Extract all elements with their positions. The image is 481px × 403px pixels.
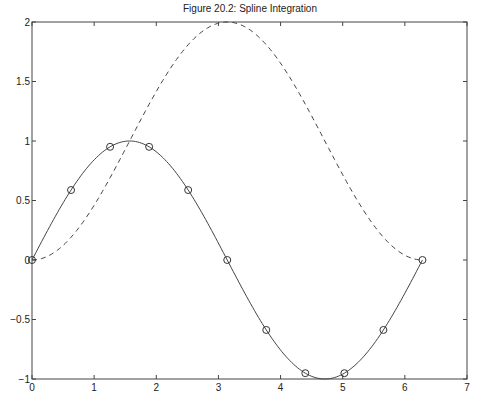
x-tick-label: 3 xyxy=(216,382,222,393)
chart: Figure 20.2: Spline Integration 01234567… xyxy=(0,0,481,403)
integral-curve-dashed xyxy=(32,22,422,260)
y-tick-label: 0.5 xyxy=(16,195,30,206)
x-tick-label: 5 xyxy=(340,382,346,393)
x-tick-label: 4 xyxy=(278,382,284,393)
x-tick-label: 1 xyxy=(91,382,97,393)
x-tick-label: 6 xyxy=(402,382,408,393)
x-tick-label: 7 xyxy=(464,382,470,393)
y-tick-label: 2 xyxy=(24,17,30,28)
x-tick-label: 2 xyxy=(154,382,160,393)
y-tick-label: 1 xyxy=(24,136,30,147)
spline-curve-solid xyxy=(32,141,422,379)
x-tick-label: 0 xyxy=(29,382,35,393)
chart-title: Figure 20.2: Spline Integration xyxy=(183,3,317,14)
y-tick-label: −0.5 xyxy=(10,314,30,325)
tick-labels: 01234567−1−0.500.511.52 xyxy=(10,17,470,394)
y-tick-label: 0 xyxy=(24,255,30,266)
y-tick-label: 1.5 xyxy=(16,76,30,87)
plot-curves xyxy=(32,22,422,379)
y-tick-label: −1 xyxy=(19,374,31,385)
